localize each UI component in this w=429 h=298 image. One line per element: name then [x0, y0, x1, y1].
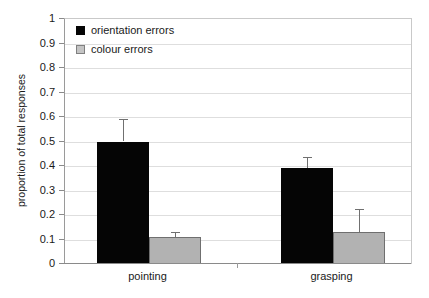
y-axis-tick-label: 0.2	[22, 209, 60, 219]
y-axis-tick-label: 0.9	[22, 38, 60, 48]
y-axis-tick-labels: 10.90.80.70.60.50.40.30.20.10	[22, 18, 60, 263]
black-square-icon	[76, 26, 85, 35]
y-axis-tick-label: 1	[22, 13, 60, 23]
bar-grasping-colour-errors	[333, 232, 385, 264]
bar-pointing-orientation-errors	[97, 142, 149, 265]
x-axis-category-label-grasping: grasping	[282, 270, 382, 282]
error-bar-cap	[119, 119, 128, 120]
legend-item-orientation-errors: orientation errors	[76, 24, 174, 37]
y-axis-tick-label: 0.6	[22, 111, 60, 121]
x-axis-tick-mark	[237, 263, 238, 268]
legend-item-colour-errors: colour errors	[76, 43, 174, 56]
y-axis-tick-label: 0.8	[22, 62, 60, 72]
error-bar-stem	[359, 209, 360, 232]
grey-square-icon	[76, 45, 85, 54]
y-axis-tick-label: 0.5	[22, 136, 60, 146]
y-axis-tick-label: 0.4	[22, 160, 60, 170]
gridline	[65, 93, 411, 94]
chart-legend: orientation errorscolour errors	[76, 24, 174, 56]
bar-chart: proportion of total responses 10.90.80.7…	[0, 0, 429, 298]
error-bar-cap	[171, 232, 180, 233]
x-axis-category-label-pointing: pointing	[98, 270, 198, 282]
bar-grasping-orientation-errors	[281, 168, 333, 264]
error-bar-stem	[123, 119, 124, 141]
gridline	[65, 117, 411, 118]
y-axis-tick-label: 0.1	[22, 234, 60, 244]
bar-pointing-colour-errors	[149, 237, 201, 264]
legend-label: colour errors	[91, 44, 153, 55]
error-bar-stem	[307, 157, 308, 168]
y-axis-tick-label: 0.3	[22, 185, 60, 195]
error-bar-cap	[355, 209, 364, 210]
y-axis-tick-label: 0	[22, 258, 60, 268]
gridline	[65, 68, 411, 69]
legend-label: orientation errors	[91, 25, 174, 36]
y-axis-tick-label: 0.7	[22, 87, 60, 97]
error-bar-cap	[303, 157, 312, 158]
